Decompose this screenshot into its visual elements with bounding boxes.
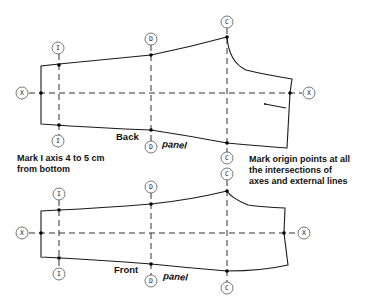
svg-text:D: D	[149, 277, 153, 285]
front-marker-x-left: X	[16, 227, 28, 239]
back-panel: X X I I D D C C Back panel	[16, 16, 315, 164]
back-marker-d-top: D	[145, 33, 157, 45]
back-marker-d-bottom: D	[145, 141, 157, 153]
svg-text:X: X	[307, 89, 311, 97]
svg-text:the intersections of: the intersections of	[249, 165, 333, 175]
back-panel-label-word1: Back	[116, 131, 139, 142]
back-marker-x-right: X	[303, 87, 315, 99]
svg-text:C: C	[225, 284, 229, 292]
note-right: Mark origin points at all the intersecti…	[249, 154, 350, 186]
front-panel-label-word2: panel	[162, 270, 189, 283]
back-marker-c-top: C	[221, 16, 233, 28]
svg-text:I: I	[57, 270, 61, 278]
svg-text:C: C	[225, 154, 229, 162]
svg-text:X: X	[20, 229, 24, 237]
note-left: Mark I axis 4 to 5 cm from bottom	[17, 153, 105, 174]
back-marker-x-left: X	[16, 87, 28, 99]
svg-text:X: X	[302, 229, 306, 237]
svg-text:I: I	[56, 137, 60, 145]
back-panel-label-word2: panel	[161, 138, 188, 151]
back-marker-i-bottom: I	[52, 135, 64, 147]
svg-text:I: I	[57, 190, 61, 198]
svg-text:Mark origin points at all: Mark origin points at all	[249, 154, 350, 164]
front-panel-outline	[41, 191, 288, 271]
svg-text:from bottom: from bottom	[17, 164, 70, 174]
front-marker-c-top: C	[221, 168, 233, 180]
svg-text:C: C	[225, 170, 229, 178]
svg-text:D: D	[149, 35, 153, 43]
pattern-diagram: X X I I D D C C Back panel Mark I axis 4…	[0, 0, 366, 307]
front-marker-x-right: X	[298, 227, 310, 239]
svg-text:Mark I axis 4 to 5 cm: Mark I axis 4 to 5 cm	[17, 153, 105, 163]
svg-text:X: X	[20, 89, 24, 97]
back-marker-c-bottom: C	[221, 152, 233, 164]
svg-text:I: I	[56, 44, 60, 52]
front-marker-c-bottom: C	[221, 282, 233, 294]
svg-text:C: C	[225, 18, 229, 26]
svg-text:D: D	[149, 183, 153, 191]
front-panel: X X I I D D C C Front panel	[16, 168, 310, 294]
front-origin-points	[39, 189, 286, 273]
back-marker-i-top: I	[52, 42, 64, 54]
svg-text:D: D	[149, 143, 153, 151]
front-marker-d-bottom: D	[145, 275, 157, 287]
svg-text:axes and external lines: axes and external lines	[249, 176, 348, 186]
front-marker-i-top: I	[53, 188, 65, 200]
front-marker-i-bottom: I	[53, 268, 65, 280]
back-panel-tick	[265, 104, 286, 108]
back-panel-outline	[41, 37, 292, 148]
front-marker-d-top: D	[145, 181, 157, 193]
front-panel-label-word1: Front	[114, 264, 139, 275]
